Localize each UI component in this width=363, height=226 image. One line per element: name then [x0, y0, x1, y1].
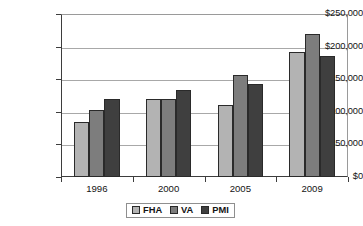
x-tick-mark — [61, 177, 62, 182]
bar-group-2000 — [146, 14, 192, 177]
chart-legend: FHAVAPMI — [126, 203, 235, 218]
bar-VA-1996 — [89, 110, 104, 177]
legend-label: FHA — [143, 206, 162, 215]
bar-group-1996 — [74, 14, 120, 177]
bar-chart: $250,000 $200,000 $150,000 $100,000 $50,… — [0, 0, 363, 226]
legend-label: VA — [181, 206, 193, 215]
legend-swatch-icon — [132, 206, 140, 214]
bar-PMI-2000 — [176, 90, 191, 177]
legend-item-VA: VA — [170, 206, 193, 215]
bar-FHA-2009 — [289, 52, 304, 177]
x-tick-mark — [348, 177, 349, 182]
bar-group-2009 — [289, 14, 335, 177]
x-tick-mark — [205, 177, 206, 182]
legend-label: PMI — [212, 206, 229, 215]
bar-VA-2005 — [233, 75, 248, 177]
bar-PMI-2009 — [320, 56, 335, 177]
bar-PMI-1996 — [104, 99, 119, 177]
bar-VA-2009 — [305, 34, 320, 177]
bar-group-2005 — [218, 14, 264, 177]
legend-item-PMI: PMI — [201, 206, 229, 215]
x-tick-label: 2005 — [205, 183, 277, 194]
legend-swatch-icon — [170, 206, 178, 214]
x-tick-mark — [276, 177, 277, 182]
bar-FHA-2000 — [146, 99, 161, 177]
bars-layer — [61, 14, 348, 177]
legend-swatch-icon — [201, 206, 209, 214]
bar-PMI-2005 — [248, 84, 263, 177]
bar-FHA-2005 — [218, 105, 233, 177]
legend-item-FHA: FHA — [132, 206, 162, 215]
x-tick-label: 1996 — [61, 183, 133, 194]
x-tick-mark — [133, 177, 134, 182]
bar-FHA-1996 — [74, 122, 89, 177]
bar-VA-2000 — [161, 99, 176, 177]
x-tick-label: 2000 — [133, 183, 205, 194]
x-tick-label: 2009 — [276, 183, 348, 194]
